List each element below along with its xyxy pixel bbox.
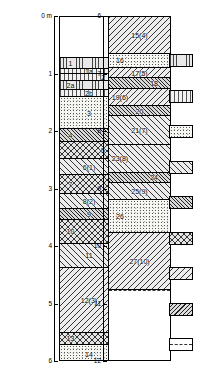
legend-swatch-8[interactable] (169, 303, 193, 316)
legend-swatch-2[interactable] (169, 90, 193, 103)
legend-swatch-5[interactable] (169, 196, 193, 209)
legend-swatch-3[interactable] (169, 125, 193, 138)
pattern-legend (0, 0, 202, 371)
legend-dash-dot (170, 344, 192, 345)
stratigraphic-figure: 0 m123456 11a22a2b3456(1)78(2)9101112(3)… (0, 0, 202, 371)
legend-swatch-1[interactable] (169, 54, 193, 67)
legend-swatch-7[interactable] (169, 267, 193, 280)
legend-swatch-4[interactable] (169, 161, 193, 174)
legend-swatch-9[interactable] (169, 338, 193, 351)
legend-swatch-6[interactable] (169, 232, 193, 245)
